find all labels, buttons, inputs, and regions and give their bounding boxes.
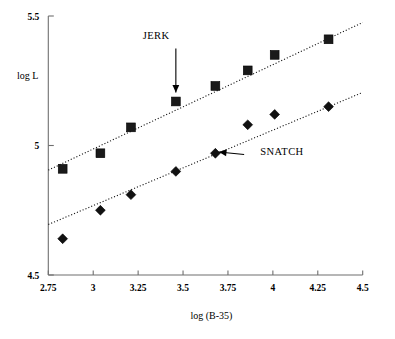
axes	[48, 16, 362, 275]
x-axis-tick-label: 3.25	[130, 283, 147, 293]
trend-line-snatch	[48, 92, 362, 224]
data-markers	[58, 35, 334, 244]
data-point-jerk	[211, 82, 220, 91]
x-axis-tick-label: 4	[270, 283, 275, 293]
y-axis-tick-label: 5.5	[27, 12, 39, 22]
annotation-label-jerk: JERK	[143, 30, 170, 41]
data-point-jerk	[58, 164, 67, 173]
data-point-snatch	[270, 110, 280, 120]
trend-lines	[48, 22, 362, 224]
data-point-snatch	[171, 167, 181, 177]
data-point-jerk	[270, 50, 279, 59]
x-axis-tick-label: 3	[91, 283, 96, 293]
x-axis-tick-label: 3.5	[177, 283, 189, 293]
annotation-arrowhead-jerk	[172, 85, 179, 93]
data-point-jerk	[243, 66, 252, 75]
chart-figure: JERKSNATCH 2.7533.253.53.7544.254.55.554…	[0, 0, 395, 339]
data-point-jerk	[96, 149, 105, 158]
x-axis-tick-label: 2.75	[40, 283, 57, 293]
trend-line-jerk	[48, 22, 362, 170]
y-axis-title: log L	[17, 70, 38, 81]
data-point-jerk	[324, 35, 333, 44]
y-axis-tick-label: 5	[35, 141, 40, 151]
x-axis-tick-label: 4.5	[357, 283, 369, 293]
x-axis-title: log (B-35)	[191, 310, 233, 322]
data-point-jerk	[127, 123, 136, 132]
data-point-snatch	[96, 205, 106, 215]
data-point-snatch	[324, 102, 334, 112]
series-annotations: JERKSNATCH	[143, 30, 304, 158]
data-point-jerk	[171, 97, 180, 106]
x-axis-tick-label: 4.25	[309, 283, 326, 293]
y-axis-tick-label: 4.5	[27, 271, 39, 281]
data-point-snatch	[243, 120, 253, 130]
data-point-snatch	[126, 190, 136, 200]
data-point-snatch	[210, 148, 220, 158]
scatter-plot-canvas: JERKSNATCH 2.7533.253.53.7544.254.55.554…	[0, 0, 395, 339]
data-point-snatch	[58, 234, 68, 244]
x-axis-tick-label: 3.75	[220, 283, 237, 293]
annotation-label-snatch: SNATCH	[260, 146, 303, 157]
